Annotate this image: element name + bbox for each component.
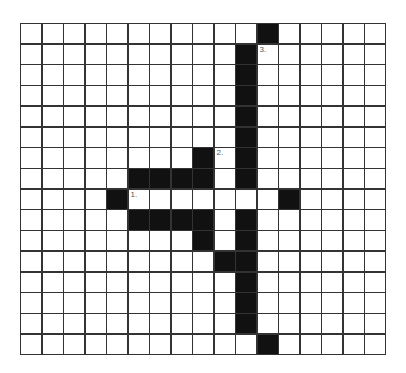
empty-cell[interactable] (215, 273, 235, 292)
empty-cell[interactable] (150, 65, 170, 84)
empty-cell[interactable] (150, 314, 170, 333)
empty-cell[interactable] (107, 252, 127, 271)
empty-cell[interactable] (43, 252, 63, 271)
filled-cell[interactable] (193, 148, 213, 167)
empty-cell[interactable] (129, 128, 149, 147)
empty-cell[interactable] (21, 210, 41, 229)
empty-cell[interactable] (344, 273, 364, 292)
empty-cell[interactable] (129, 293, 149, 312)
empty-cell[interactable] (107, 148, 127, 167)
empty-cell[interactable] (322, 293, 342, 312)
empty-cell[interactable] (86, 190, 106, 209)
empty-cell[interactable] (365, 86, 385, 105)
empty-cell[interactable] (215, 293, 235, 312)
empty-cell[interactable] (21, 335, 41, 354)
filled-cell[interactable] (236, 210, 256, 229)
empty-cell[interactable] (129, 231, 149, 250)
empty-cell[interactable] (86, 148, 106, 167)
empty-cell[interactable] (322, 273, 342, 292)
empty-cell[interactable] (344, 24, 364, 43)
empty-cell[interactable] (43, 335, 63, 354)
empty-cell[interactable] (344, 86, 364, 105)
filled-cell[interactable] (236, 293, 256, 312)
empty-cell[interactable] (129, 314, 149, 333)
empty-cell[interactable] (344, 335, 364, 354)
empty-cell[interactable] (172, 252, 192, 271)
filled-cell[interactable] (236, 148, 256, 167)
empty-cell[interactable] (365, 335, 385, 354)
empty-cell[interactable] (86, 169, 106, 188)
empty-cell[interactable] (21, 24, 41, 43)
empty-cell[interactable] (279, 231, 299, 250)
empty-cell[interactable] (86, 273, 106, 292)
empty-cell[interactable] (43, 314, 63, 333)
empty-cell[interactable] (322, 24, 342, 43)
empty-cell[interactable] (301, 210, 321, 229)
empty-cell[interactable] (107, 231, 127, 250)
filled-cell[interactable] (236, 45, 256, 64)
empty-cell[interactable] (107, 24, 127, 43)
empty-cell[interactable] (21, 169, 41, 188)
empty-cell[interactable] (64, 45, 84, 64)
empty-cell[interactable] (365, 252, 385, 271)
filled-cell[interactable] (129, 210, 149, 229)
empty-cell[interactable] (344, 231, 364, 250)
empty-cell[interactable] (322, 45, 342, 64)
empty-cell[interactable] (279, 45, 299, 64)
empty-cell[interactable] (129, 65, 149, 84)
filled-cell[interactable] (236, 252, 256, 271)
empty-cell[interactable] (64, 107, 84, 126)
empty-cell[interactable] (365, 148, 385, 167)
filled-cell[interactable] (150, 210, 170, 229)
filled-cell[interactable] (193, 169, 213, 188)
empty-cell[interactable] (258, 65, 278, 84)
empty-cell[interactable] (129, 45, 149, 64)
filled-cell[interactable] (258, 335, 278, 354)
empty-cell[interactable] (236, 335, 256, 354)
empty-cell[interactable] (150, 293, 170, 312)
empty-cell[interactable] (322, 107, 342, 126)
empty-cell[interactable] (172, 293, 192, 312)
empty-cell[interactable] (86, 45, 106, 64)
empty-cell[interactable] (21, 107, 41, 126)
filled-cell[interactable] (236, 169, 256, 188)
empty-cell[interactable] (21, 314, 41, 333)
empty-cell[interactable] (107, 314, 127, 333)
empty-cell[interactable] (21, 273, 41, 292)
filled-cell[interactable] (279, 190, 299, 209)
filled-cell[interactable] (236, 107, 256, 126)
empty-cell[interactable] (279, 24, 299, 43)
empty-cell[interactable] (107, 169, 127, 188)
empty-cell[interactable] (258, 252, 278, 271)
empty-cell[interactable] (64, 210, 84, 229)
empty-cell[interactable] (215, 45, 235, 64)
empty-cell[interactable] (322, 335, 342, 354)
empty-cell[interactable] (193, 128, 213, 147)
empty-cell[interactable] (107, 65, 127, 84)
filled-cell[interactable] (258, 24, 278, 43)
empty-cell[interactable] (107, 335, 127, 354)
empty-cell[interactable] (21, 293, 41, 312)
empty-cell[interactable] (43, 24, 63, 43)
empty-cell[interactable] (172, 45, 192, 64)
empty-cell[interactable] (301, 190, 321, 209)
empty-cell[interactable] (43, 65, 63, 84)
empty-cell[interactable] (150, 107, 170, 126)
empty-cell[interactable] (365, 190, 385, 209)
filled-cell[interactable] (236, 86, 256, 105)
empty-cell[interactable] (172, 148, 192, 167)
empty-cell[interactable] (279, 148, 299, 167)
empty-cell[interactable] (279, 273, 299, 292)
empty-cell[interactable] (344, 210, 364, 229)
filled-cell[interactable] (236, 273, 256, 292)
empty-cell[interactable] (322, 128, 342, 147)
empty-cell[interactable] (150, 335, 170, 354)
empty-cell[interactable] (43, 107, 63, 126)
empty-cell[interactable] (150, 252, 170, 271)
empty-cell[interactable] (215, 128, 235, 147)
empty-cell[interactable] (344, 107, 364, 126)
empty-cell[interactable] (43, 231, 63, 250)
empty-cell[interactable] (64, 335, 84, 354)
empty-cell[interactable] (129, 86, 149, 105)
empty-cell[interactable] (301, 128, 321, 147)
